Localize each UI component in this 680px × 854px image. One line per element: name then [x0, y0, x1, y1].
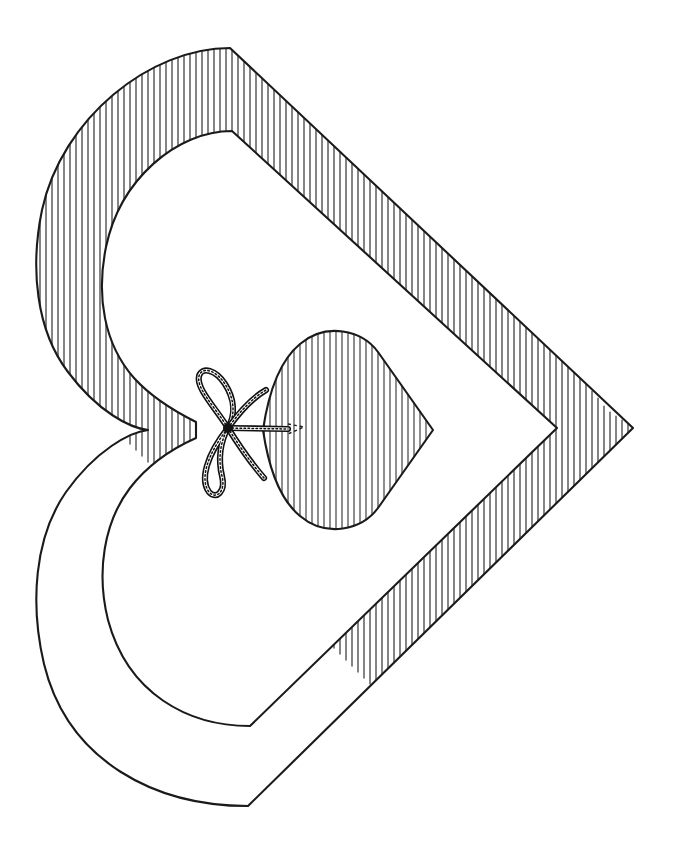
artwork-canvas: Hatched Heart Outline with Corded Bow an…: [0, 0, 680, 854]
heart-illustration: Hatched Heart Outline with Corded Bow an…: [0, 0, 680, 854]
bow-knot: [223, 423, 233, 433]
